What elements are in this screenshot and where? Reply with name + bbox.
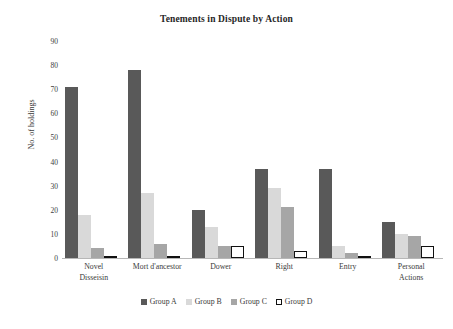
bar-group <box>255 41 307 258</box>
legend-item[interactable]: Group A <box>141 297 177 306</box>
x-tick-label-line: Disseisin <box>54 273 134 284</box>
y-axis-tick-labels: 9080706050403020100 <box>0 0 58 329</box>
chart-title: Tenements in Dispute by Action <box>0 14 453 24</box>
x-axis-line <box>62 258 443 259</box>
bar[interactable] <box>294 251 307 258</box>
legend-swatch-icon <box>186 299 192 305</box>
bar[interactable] <box>268 188 281 258</box>
y-tick-label: 40 <box>12 157 58 166</box>
legend-swatch-icon <box>276 299 282 305</box>
x-tick-label: PersonalActions <box>372 262 452 283</box>
y-tick-label: 70 <box>12 85 58 94</box>
bar[interactable] <box>345 253 358 258</box>
bar-group <box>319 41 371 258</box>
bar[interactable] <box>128 70 141 258</box>
bar[interactable] <box>167 256 180 259</box>
y-tick-label: 90 <box>12 37 58 46</box>
legend-item[interactable]: Group C <box>231 297 267 306</box>
bar[interactable] <box>231 246 244 258</box>
legend-item[interactable]: Group D <box>276 297 313 306</box>
bar[interactable] <box>205 227 218 258</box>
chart-legend: Group AGroup BGroup CGroup D <box>0 297 453 306</box>
bar[interactable] <box>332 246 345 258</box>
bar[interactable] <box>281 207 294 258</box>
bar[interactable] <box>65 87 78 258</box>
legend-label: Group C <box>240 297 267 306</box>
bar[interactable] <box>218 246 231 258</box>
bar[interactable] <box>421 246 434 258</box>
y-tick-label: 50 <box>12 133 58 142</box>
bar[interactable] <box>358 256 371 259</box>
x-tick-label-line: Actions <box>372 273 452 284</box>
plot-area <box>62 41 443 258</box>
bar[interactable] <box>154 244 167 258</box>
legend-swatch-icon <box>141 299 147 305</box>
legend-label: Group B <box>195 297 222 306</box>
bar-group <box>382 41 434 258</box>
legend-item[interactable]: Group B <box>186 297 222 306</box>
bar[interactable] <box>255 169 268 258</box>
bar[interactable] <box>192 210 205 258</box>
bar[interactable] <box>91 248 104 258</box>
y-tick-label: 30 <box>12 181 58 190</box>
y-tick-label: 80 <box>12 61 58 70</box>
legend-label: Group A <box>150 297 177 306</box>
bar-group <box>65 41 117 258</box>
bar[interactable] <box>141 193 154 258</box>
bar[interactable] <box>382 222 395 258</box>
y-tick-label: 10 <box>12 229 58 238</box>
bar[interactable] <box>78 215 91 258</box>
bar-group <box>192 41 244 258</box>
y-tick-label: 20 <box>12 205 58 214</box>
legend-label: Group D <box>285 297 313 306</box>
bar-group <box>128 41 180 258</box>
bar[interactable] <box>319 169 332 258</box>
y-tick-label: 60 <box>12 109 58 118</box>
bar[interactable] <box>408 236 421 258</box>
legend-swatch-icon <box>231 299 237 305</box>
y-tick-label: 0 <box>12 254 58 263</box>
bar[interactable] <box>395 234 408 258</box>
x-tick-label-line: Personal <box>372 262 452 273</box>
bar[interactable] <box>104 256 117 259</box>
bar-chart: Tenements in Dispute by Action No. of ho… <box>0 0 453 329</box>
